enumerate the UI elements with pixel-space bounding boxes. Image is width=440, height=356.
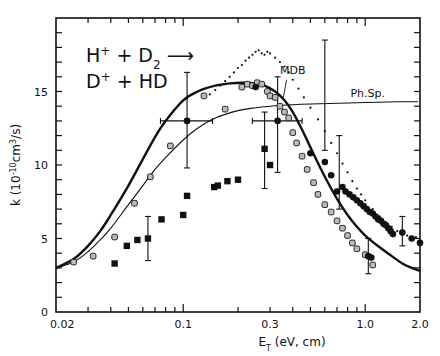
dotted-curve-point bbox=[251, 54, 253, 56]
open-square-marker bbox=[311, 180, 317, 186]
dotted-curve-point bbox=[415, 236, 417, 238]
dotted-curve-point bbox=[269, 52, 271, 54]
open-square-marker bbox=[286, 115, 292, 121]
curve-label: Ph.Sp. bbox=[350, 87, 385, 100]
open-square-marker bbox=[322, 202, 328, 208]
dotted-curve-point bbox=[406, 234, 408, 236]
x-tick-label: 2.0 bbox=[411, 318, 429, 331]
y-tick-label: 0 bbox=[41, 306, 48, 319]
open-square-marker bbox=[222, 106, 228, 112]
open-square-marker bbox=[290, 130, 296, 136]
dotted-curve-point bbox=[274, 57, 276, 59]
filled-square-marker bbox=[145, 235, 151, 241]
open-square-marker bbox=[350, 240, 356, 246]
filled-square-marker bbox=[267, 162, 273, 168]
dotted-curve-point bbox=[237, 67, 239, 69]
dotted-curve-point bbox=[330, 142, 332, 144]
filled-square-marker bbox=[134, 237, 140, 243]
filled-circle-marker bbox=[399, 229, 406, 236]
y-tick-label: 5 bbox=[41, 233, 48, 246]
open-square-marker bbox=[90, 253, 96, 259]
open-square-marker bbox=[315, 192, 321, 198]
y-tick-label: 10 bbox=[34, 159, 48, 172]
dotted-curve-point bbox=[229, 76, 231, 78]
open-square-marker bbox=[112, 234, 118, 240]
dotted-curve-point bbox=[255, 51, 257, 53]
dotted-curve-point bbox=[266, 51, 268, 53]
open-square-marker bbox=[294, 140, 300, 146]
open-square-marker bbox=[328, 209, 334, 215]
filled-square-marker bbox=[261, 146, 267, 152]
dotted-curve-point bbox=[341, 162, 343, 164]
filled-circle-marker bbox=[184, 118, 191, 125]
dotted-curve-point bbox=[360, 193, 362, 195]
filled-circle-marker bbox=[307, 150, 314, 157]
dotted-curve-point bbox=[346, 171, 348, 173]
dotted-curve-point bbox=[292, 79, 294, 81]
open-square-marker bbox=[334, 218, 340, 224]
dotted-curve-point bbox=[309, 107, 311, 109]
open-square-marker bbox=[282, 109, 288, 115]
x-tick-label: 0.1 bbox=[174, 318, 192, 331]
chart-background bbox=[0, 0, 440, 356]
curve-label: MDB bbox=[280, 64, 306, 77]
filled-square-marker bbox=[184, 193, 190, 199]
dotted-curve-point bbox=[219, 85, 221, 87]
open-square-marker bbox=[259, 81, 265, 87]
dotted-curve-point bbox=[364, 199, 366, 201]
y-tick-label: 15 bbox=[34, 86, 48, 99]
dotted-curve-point bbox=[303, 96, 305, 98]
filled-square-marker bbox=[124, 243, 130, 249]
dotted-curve-point bbox=[258, 49, 260, 51]
open-square-marker bbox=[168, 143, 174, 149]
filled-circle-marker bbox=[390, 231, 397, 238]
filled-circle-marker bbox=[322, 159, 329, 166]
filled-square-marker bbox=[224, 178, 230, 184]
filled-square-marker bbox=[158, 216, 164, 222]
filled-circle-marker bbox=[274, 118, 281, 125]
open-square-marker bbox=[272, 95, 278, 101]
dotted-curve-point bbox=[297, 87, 299, 89]
dotted-curve-point bbox=[351, 180, 353, 182]
filled-circle-marker bbox=[408, 235, 415, 242]
x-tick-label: 1.0 bbox=[356, 318, 374, 331]
dotted-curve-point bbox=[233, 71, 235, 73]
filled-circle-marker bbox=[252, 84, 259, 91]
open-square-marker bbox=[148, 174, 154, 180]
open-square-marker bbox=[354, 246, 360, 252]
open-square-marker bbox=[304, 167, 310, 173]
reaction-line-2: D+ + HD bbox=[86, 70, 168, 92]
open-square-marker bbox=[345, 233, 351, 239]
filled-circle-marker bbox=[417, 240, 424, 247]
filled-circle-marker bbox=[328, 172, 335, 179]
filled-square-marker bbox=[215, 182, 221, 188]
x-tick-label: 0.02 bbox=[50, 318, 75, 331]
dotted-curve-point bbox=[224, 80, 226, 82]
chart-figure: 0.020.10.31.02.0051015 MDBPh.Sp. k (10-1… bbox=[0, 0, 440, 356]
dotted-curve-point bbox=[317, 118, 319, 120]
dotted-curve-point bbox=[241, 64, 243, 66]
filled-circle-marker bbox=[334, 188, 341, 195]
dotted-curve-point bbox=[261, 52, 263, 54]
open-square-marker bbox=[340, 225, 346, 231]
dotted-curve-point bbox=[396, 230, 398, 232]
dotted-curve-point bbox=[263, 54, 265, 56]
dotted-curve-point bbox=[214, 89, 216, 91]
filled-circle-marker bbox=[368, 254, 375, 261]
open-square-marker bbox=[132, 200, 138, 206]
dotted-curve-point bbox=[356, 187, 358, 189]
open-square-marker bbox=[201, 93, 207, 99]
open-square-marker bbox=[299, 153, 305, 159]
dotted-curve-point bbox=[209, 93, 211, 95]
open-square-marker bbox=[239, 84, 245, 90]
filled-square-marker bbox=[235, 177, 241, 183]
dotted-curve-point bbox=[336, 152, 338, 154]
open-square-marker bbox=[277, 103, 283, 109]
open-square-marker bbox=[71, 259, 77, 265]
dotted-curve-point bbox=[244, 60, 246, 62]
dotted-curve-point bbox=[248, 57, 250, 59]
open-square-marker bbox=[370, 262, 376, 268]
filled-square-marker bbox=[111, 260, 117, 266]
dotted-curve-point bbox=[279, 61, 281, 63]
x-tick-label: 0.3 bbox=[261, 318, 279, 331]
